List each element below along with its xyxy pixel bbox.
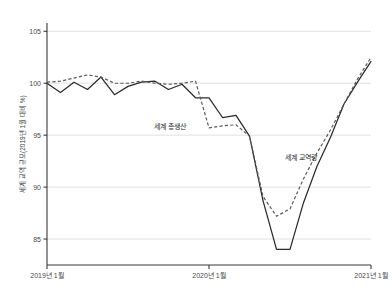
series-line-world-trade [47, 61, 371, 249]
annotation-label-0: 세계 총생산 [154, 122, 187, 131]
x-tick-label-2: 2021년 1월 [354, 271, 387, 279]
data-series [47, 57, 371, 249]
annotation-label-1: 세계 교역량 [285, 153, 318, 162]
x-axis-ticks: 2019년 1월2020년 1월2021년 1월 [30, 265, 387, 279]
y-axis-title: 세계 교역 규모(2019년 1월 대비 %) [18, 95, 27, 192]
y-tick-label-105: 105 [29, 28, 41, 35]
y-tick-label-95: 95 [33, 132, 41, 139]
x-tick-label-0: 2019년 1월 [30, 271, 63, 279]
chart-container: 859095100105 2019년 1월2020년 1월2021년 1월 세계… [0, 0, 392, 300]
series-annotations: 세계 총생산세계 교역량 [154, 122, 318, 162]
y-axis-title-text: 세계 교역 규모(2019년 1월 대비 %) [18, 95, 27, 192]
y-tick-label-100: 100 [29, 80, 41, 87]
y-tick-label-85: 85 [33, 236, 41, 243]
grid-lines [47, 31, 371, 239]
x-tick-label-1: 2020년 1월 [192, 271, 225, 279]
y-axis-ticks: 859095100105 [29, 28, 47, 243]
y-tick-label-90: 90 [33, 184, 41, 191]
line-chart: 859095100105 2019년 1월2020년 1월2021년 1월 세계… [0, 0, 392, 300]
series-line-world-production [47, 57, 371, 216]
